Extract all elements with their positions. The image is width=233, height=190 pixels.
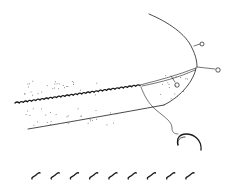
scale-marks-row [32,173,194,179]
stipple-dot [30,115,31,116]
stipple-dot [50,124,51,125]
stipple-dot [96,119,97,120]
scale-mark [128,173,136,179]
stipple-dot [169,84,170,85]
stipple-dot [176,76,177,77]
stippling [24,75,187,126]
bristle-knob-upper [200,42,204,46]
stipple-dot [67,86,68,87]
stipple-dot [28,84,29,85]
stipple-dot [177,96,178,97]
stipple-dot [24,93,25,94]
stipple-dot [45,115,46,116]
stipple-dot [175,85,176,86]
stipple-dot [183,91,184,92]
stipple-dot [96,110,97,111]
stipple-dot [110,113,111,114]
stipple-dot [187,79,188,80]
inner-sheath-line-2 [142,70,195,86]
stipple-dot [63,85,64,86]
stipple-dot [90,119,91,120]
stipple-dot [58,88,59,89]
stipple-dot [80,90,81,91]
stipple-dot [92,120,93,121]
stipple-dot [31,92,32,93]
serrated-edge [15,85,140,103]
stipple-dot [34,125,35,126]
stipple-dot [25,94,26,95]
scale-mark [167,173,175,179]
stipple-dot [174,94,175,95]
stipple-dot [185,78,186,79]
stipple-dot [113,123,114,124]
stipple-dot [50,112,51,113]
stipple-dot [66,86,67,87]
stipple-dot [54,88,55,89]
scale-mark [186,173,194,179]
stipple-dot [171,98,172,99]
stipple-dot [41,109,42,110]
stipple-dot [167,82,168,83]
hook [177,134,201,150]
illustration [0,0,233,190]
stipple-dot [26,114,27,115]
stipple-dot [47,122,48,123]
stipple-dot [160,94,161,95]
stipple-dot [57,84,58,85]
stipple-dot [95,95,96,96]
stipple-dot [37,122,38,123]
stipple-dot [169,87,170,88]
scale-mark [32,173,40,179]
scale-mark [90,173,98,179]
stipple-dot [72,81,73,82]
hook-stalk [141,87,178,134]
stipple-dot [38,93,39,94]
stipple-dot [29,83,30,84]
stipple-dot [165,75,166,76]
stipple-dot [52,88,53,89]
stipple-dot [81,116,82,117]
stipple-dot [51,121,52,122]
stipple-dot [90,121,91,122]
bristle-right [197,67,215,69]
stipple-dot [73,82,74,83]
stipple-dot [88,123,89,124]
bristle-knob-inner [175,83,179,87]
stipple-dot [64,87,65,88]
stipple-dot [116,114,117,115]
stipple-dot [67,122,68,123]
stipple-dot [96,83,97,84]
stipple-dot [78,108,79,109]
stipple-dot [41,92,42,93]
scale-mark [109,173,117,179]
stipple-dot [73,84,74,85]
scale-mark [147,173,155,179]
stipple-dot [27,111,28,112]
bristle-upper [194,44,200,46]
stipple-dot [28,87,29,88]
stipple-dot [32,95,33,96]
upper-curved-margin [149,14,197,67]
stipple-dot [56,114,57,115]
stipple-dot [173,78,174,79]
bristle-knob-right [216,68,220,72]
stipple-dot [162,84,163,85]
stipple-dot [68,123,69,124]
scale-mark [51,173,59,179]
scale-mark [70,173,78,179]
stipple-dot [67,116,68,117]
stipple-dot [55,81,56,82]
stipple-dot [59,84,60,85]
stipple-dot [33,108,34,109]
lower-margin [28,105,164,129]
stipple-dot [32,81,33,82]
stipple-dot [68,116,69,117]
stipple-dot [47,85,48,86]
stipple-dot [55,84,56,85]
stipple-dot [180,77,181,78]
stipple-dot [107,125,108,126]
